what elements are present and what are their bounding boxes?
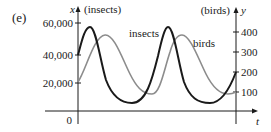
- part-label: (e): [12, 10, 26, 25]
- time-axis-arrow-icon: [252, 109, 258, 114]
- right-axis-arrow-icon: [234, 7, 239, 13]
- right-tick-label: 300: [241, 46, 258, 58]
- left-axis-unit: (insects): [84, 3, 122, 16]
- left-axis: x (insects) 60,000 40,000 20,000 0: [43, 3, 122, 126]
- right-axis: (birds) y 400 300 200 100: [201, 4, 258, 124]
- right-tick-label: 400: [241, 26, 258, 38]
- right-tick-label: 200: [241, 66, 258, 78]
- left-axis-arrow-icon: [76, 6, 81, 12]
- left-tick-label: 40,000: [43, 49, 74, 61]
- time-axis: t: [45, 109, 260, 128]
- left-axis-var: x: [69, 3, 75, 15]
- left-tick-label: 60,000: [43, 17, 74, 29]
- right-axis-unit: (birds): [201, 4, 231, 17]
- birds-label: birds: [193, 37, 215, 49]
- time-axis-var: t: [256, 115, 260, 127]
- right-axis-var: y: [240, 4, 246, 16]
- right-tick-label: 100: [241, 86, 258, 98]
- left-tick-label: 20,000: [43, 77, 74, 89]
- insects-label: insects: [129, 27, 159, 39]
- predator-prey-chart: (e) x (insects) 60,000 40,000 20,000 0 t…: [0, 0, 271, 132]
- origin-label: 0: [67, 114, 73, 126]
